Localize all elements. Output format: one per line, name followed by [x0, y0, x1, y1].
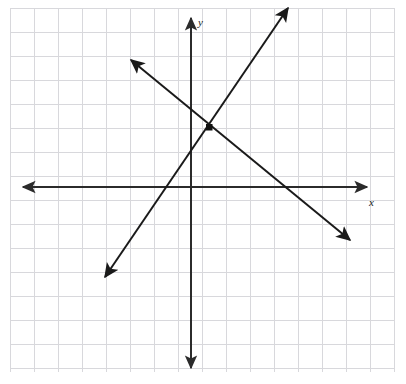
coordinate-plane-figure: y x [0, 0, 406, 384]
y-axis-label: y [197, 16, 203, 28]
x-axis-label: x [368, 196, 374, 208]
graph-canvas: y x [0, 0, 406, 384]
intersection-point-marker [206, 124, 213, 131]
figure-background [0, 0, 406, 384]
